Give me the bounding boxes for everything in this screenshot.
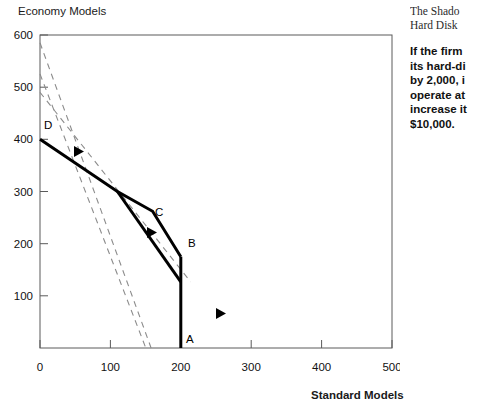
x-tick-label-300: 300 [242,361,261,373]
side-body-line-6: $10,000. [410,118,455,130]
y-tick-label-100: 100 [14,290,33,302]
point-label-a: A [186,333,194,345]
x-tick-label-400: 400 [312,361,331,373]
arrow-upper-icon [74,146,84,157]
y-tick-label-400: 400 [14,133,33,145]
side-text-panel: The Shado Hard Disk If the firm its hard… [410,0,503,413]
x-tick-label-100: 100 [101,361,120,373]
side-body-line-2: its hard-di [410,60,466,72]
x-axis-ticks [40,340,392,348]
side-heading-line-1: The Shado [410,5,460,17]
side-panel-heading: The Shado Hard Disk [410,5,503,32]
x-axis-title: Standard Models [311,388,404,402]
point-label-b: B [188,237,196,249]
x-tick-label-200: 200 [171,361,190,373]
isocost-outer-line [40,43,151,348]
point-label-c: C [155,206,163,218]
x-tick-label-0: 0 [37,361,43,373]
arrow-middle-icon [147,227,157,238]
y-tick-label-200: 200 [14,238,33,250]
side-panel-body: If the firm its hard-di by 2,000, i oper… [410,44,503,131]
plot-frame [40,35,392,348]
chart-container: Economy Models 600 500 400 300 [0,0,400,413]
y-axis-ticks [40,35,48,296]
isocost-inner-line [40,92,191,281]
y-tick-label-600: 600 [14,29,33,41]
side-body-line-3: by 2,000, i [410,74,465,86]
x-tick-label-500: 500 [382,361,400,373]
isocost-lines [40,43,191,348]
point-label-d: D [44,119,52,131]
side-heading-line-2: Hard Disk [410,19,458,31]
plot-area: 600 500 400 300 200 100 0 100 200 300 40… [0,0,400,413]
side-body-line-1: If the firm [410,45,462,57]
y-tick-label-500: 500 [14,81,33,93]
side-body-line-4: operate at [410,89,465,101]
arrow-lower-icon [216,308,226,319]
y-tick-label-300: 300 [14,186,33,198]
direction-arrows [74,146,226,319]
side-body-line-5: increase it [410,103,467,115]
axes-frame [40,35,392,348]
outer-frontier-line [40,139,181,256]
